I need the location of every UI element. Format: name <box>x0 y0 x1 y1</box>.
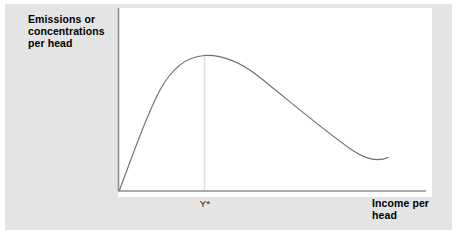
turning-point-label: Y* <box>190 198 220 209</box>
y-axis-label: Emissions or concentrations per head <box>28 13 110 50</box>
x-axis-label: Income per head <box>372 197 452 221</box>
plot-area <box>118 8 432 197</box>
kuznets-curve-figure: Emissions or concentrations per head Inc… <box>0 0 458 245</box>
